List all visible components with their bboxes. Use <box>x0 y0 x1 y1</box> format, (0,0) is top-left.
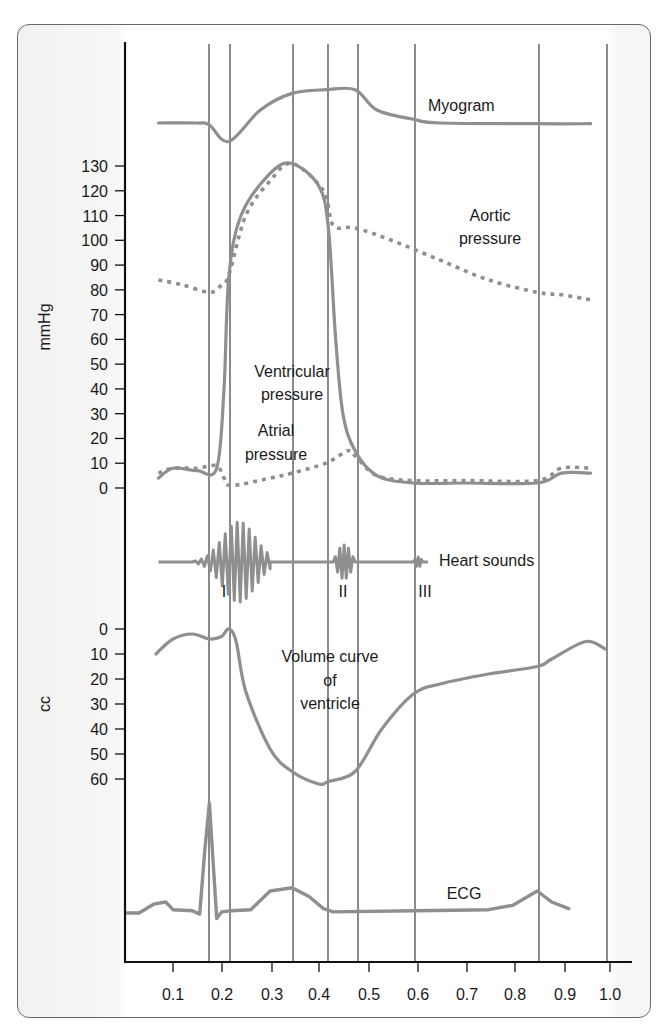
label-volume-line1: Volume curve <box>282 648 379 665</box>
cc-tick-label: 30 <box>90 696 108 713</box>
mmhg-tick-label: 10 <box>90 455 108 472</box>
atrial-pressure-curve <box>158 450 590 485</box>
mmhg-tick-label: 90 <box>90 257 108 274</box>
cc-tick-label: 0 <box>99 621 108 638</box>
x-tick-label: 0.7 <box>456 986 478 1003</box>
mmhg-axis-ticks: 0102030405060708090100110120130 <box>81 158 125 497</box>
cc-tick-label: 20 <box>90 671 108 688</box>
volume-curve <box>156 629 605 785</box>
mmhg-tick-label: 110 <box>82 208 108 225</box>
label-ventricular-line2: pressure <box>261 386 323 403</box>
label-sound-III: III <box>418 583 431 600</box>
label-volume-line3: ventricle <box>300 695 360 712</box>
mmhg-tick-label: 20 <box>90 430 108 447</box>
label-ecg: ECG <box>447 885 482 902</box>
label-volume-line2: of <box>323 672 337 689</box>
x-axis-ticks: 0.10.20.30.40.50.60.70.80.91.0 <box>162 962 621 1003</box>
cc-axis-title: cc <box>36 696 53 712</box>
x-tick-label: 0.1 <box>162 986 184 1003</box>
label-aortic-line1: Aortic <box>470 207 511 224</box>
label-ventricular-line1: Ventricular <box>254 363 330 380</box>
ventricular-pressure-curve <box>158 163 590 484</box>
label-heart-sounds: Heart sounds <box>439 552 534 569</box>
aortic-pressure-curve <box>158 163 590 299</box>
mmhg-tick-label: 70 <box>90 307 108 324</box>
label-atrial-line2: pressure <box>245 446 307 463</box>
x-tick-label: 1.0 <box>599 986 621 1003</box>
label-aortic-line2: pressure <box>459 230 521 247</box>
cardiac-cycle-chart: 0102030405060708090100110120130 01020304… <box>0 0 664 1027</box>
mmhg-tick-label: 130 <box>81 158 108 175</box>
mmhg-tick-label: 80 <box>90 282 108 299</box>
x-tick-label: 0.9 <box>554 986 576 1003</box>
cc-tick-label: 10 <box>90 646 108 663</box>
label-sound-I: I <box>222 583 226 600</box>
cc-tick-label: 40 <box>90 721 108 738</box>
cc-axis-ticks: 0102030405060 <box>90 621 125 788</box>
curves <box>127 88 605 918</box>
x-tick-label: 0.4 <box>308 986 330 1003</box>
cc-tick-label: 50 <box>90 746 108 763</box>
mmhg-tick-label: 100 <box>81 232 108 249</box>
label-atrial-line1: Atrial <box>258 422 294 439</box>
x-tick-label: 0.5 <box>358 986 380 1003</box>
x-tick-label: 0.3 <box>261 986 283 1003</box>
mmhg-tick-label: 120 <box>81 183 108 200</box>
cc-tick-label: 60 <box>90 771 108 788</box>
mmhg-axis-title: mmHg <box>36 303 53 350</box>
myogram-curve <box>158 88 590 142</box>
x-tick-label: 0.8 <box>504 986 526 1003</box>
ecg-curve <box>127 803 569 919</box>
x-tick-label: 0.6 <box>407 986 429 1003</box>
label-myogram: Myogram <box>428 97 495 114</box>
mmhg-tick-label: 0 <box>99 480 108 497</box>
mmhg-tick-label: 60 <box>90 331 108 348</box>
mmhg-tick-label: 30 <box>90 406 108 423</box>
mmhg-tick-label: 40 <box>90 381 108 398</box>
mmhg-tick-label: 50 <box>90 356 108 373</box>
x-tick-label: 0.2 <box>211 986 233 1003</box>
label-sound-II: II <box>339 583 348 600</box>
